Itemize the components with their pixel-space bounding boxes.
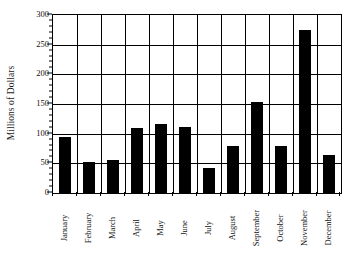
x-tick-label: January bbox=[59, 215, 69, 241]
x-tick-label: October bbox=[275, 214, 285, 241]
vertical-gridline bbox=[173, 15, 174, 193]
x-tick bbox=[339, 192, 340, 196]
x-tick-label: December bbox=[323, 211, 333, 246]
bar-chart-figure: Millions of Dollars 050100150200250300 J… bbox=[0, 0, 362, 269]
x-tick-label: July bbox=[203, 221, 213, 235]
x-tick-label-slot: November bbox=[292, 197, 316, 269]
vertical-gridline bbox=[221, 15, 222, 193]
y-axis-title-container: Millions of Dollars bbox=[0, 0, 22, 205]
vertical-gridline bbox=[101, 15, 102, 193]
x-tick-label-slot: July bbox=[196, 197, 220, 269]
x-tick-label-slot: December bbox=[316, 197, 340, 269]
x-tick bbox=[124, 192, 125, 196]
bar bbox=[179, 127, 190, 193]
x-tick bbox=[196, 192, 197, 196]
x-tick bbox=[268, 192, 269, 196]
bar bbox=[251, 102, 262, 193]
x-tick-label: August bbox=[227, 216, 237, 241]
x-tick bbox=[100, 192, 101, 196]
vertical-gridline bbox=[77, 15, 78, 193]
vertical-gridline bbox=[149, 15, 150, 193]
bar bbox=[323, 155, 334, 193]
x-tick-label: May bbox=[155, 220, 165, 236]
bar bbox=[275, 146, 286, 193]
x-tick bbox=[76, 192, 77, 196]
x-tick-label: April bbox=[131, 219, 141, 237]
x-tick-label-slot: January bbox=[52, 197, 76, 269]
x-tick-label-slot: September bbox=[244, 197, 268, 269]
x-tick-label-slot: August bbox=[220, 197, 244, 269]
y-axis-title: Millions of Dollars bbox=[6, 65, 16, 140]
x-tick bbox=[292, 192, 293, 196]
bar bbox=[83, 162, 94, 193]
x-tick bbox=[148, 192, 149, 196]
vertical-gridline bbox=[293, 15, 294, 193]
x-tick-label-slot: March bbox=[100, 197, 124, 269]
x-tick-label: February bbox=[83, 213, 93, 244]
x-tick-label-slot: October bbox=[268, 197, 292, 269]
x-tick bbox=[52, 192, 53, 196]
x-tick-label: June bbox=[179, 220, 189, 236]
x-tick-label: November bbox=[299, 210, 309, 246]
plot-inner bbox=[53, 15, 341, 193]
x-tick-label: March bbox=[107, 217, 117, 239]
bar bbox=[155, 124, 166, 193]
x-tick bbox=[172, 192, 173, 196]
vertical-gridline bbox=[317, 15, 318, 193]
plot-area bbox=[52, 14, 342, 194]
x-tick-label-slot: February bbox=[76, 197, 100, 269]
bar bbox=[59, 137, 70, 193]
x-tick-label: September bbox=[251, 210, 261, 246]
x-axis-tick-labels: JanuaryFebruaryMarchAprilMayJuneJulyAugu… bbox=[52, 197, 340, 269]
bar bbox=[131, 128, 142, 193]
x-tick bbox=[244, 192, 245, 196]
x-tick bbox=[220, 192, 221, 196]
vertical-gridline bbox=[245, 15, 246, 193]
bar bbox=[203, 168, 214, 194]
x-tick-label-slot: April bbox=[124, 197, 148, 269]
vertical-gridline bbox=[269, 15, 270, 193]
x-tick-label-slot: June bbox=[172, 197, 196, 269]
bar bbox=[299, 30, 310, 193]
x-tick-label-slot: May bbox=[148, 197, 172, 269]
vertical-gridline bbox=[197, 15, 198, 193]
x-tick bbox=[316, 192, 317, 196]
bar bbox=[107, 160, 118, 193]
bar bbox=[227, 146, 238, 193]
vertical-gridline bbox=[125, 15, 126, 193]
